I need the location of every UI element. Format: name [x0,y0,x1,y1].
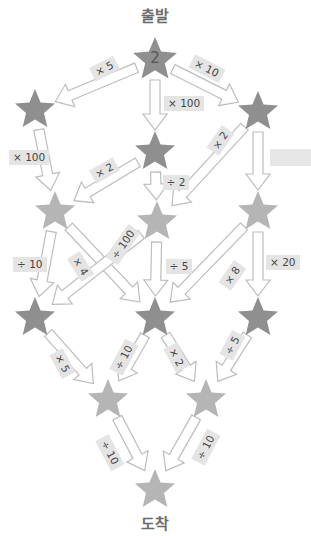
star-node-r2-right [238,91,278,129]
start-title: 출발 [141,4,169,25]
operation-label: ÷ 10 [13,257,47,272]
operation-maze-diagram: × 5× 100× 10× 100× 2÷ 2× 2÷ 10× 4÷ 100÷ … [0,0,311,536]
operation-label: × 100 [9,150,49,165]
star-node-r5-right [186,379,226,417]
star-node-r4-center [135,297,175,335]
star-node-end [135,469,175,507]
operation-label: ÷ 2 [163,175,190,190]
arrow-r5-right-to-end [163,415,200,471]
arrow-r2-right-to-r3-right [246,132,270,190]
operation-label: × 20 [266,255,300,270]
arrow-r2-right-to-r3-center [172,123,248,205]
blank-operation-label [270,149,311,166]
start-value: 2 [150,49,160,67]
star-node-r4-left [15,297,55,335]
star-node-r5-left [88,379,128,417]
maze-canvas [0,0,311,536]
star-node-r3-left [35,191,75,229]
star-node-r3-center [137,201,177,239]
star-node-r4-right [238,297,278,335]
operation-label: ÷ 5 [166,259,193,274]
star-node-r3-right [238,191,278,229]
star-node-r2-left [15,89,55,127]
arrow-r3-center-to-r4-center [144,242,168,296]
star-node-r2-center [135,131,175,169]
operation-label: × 100 [164,96,204,111]
end-title: 도착 [141,512,169,533]
